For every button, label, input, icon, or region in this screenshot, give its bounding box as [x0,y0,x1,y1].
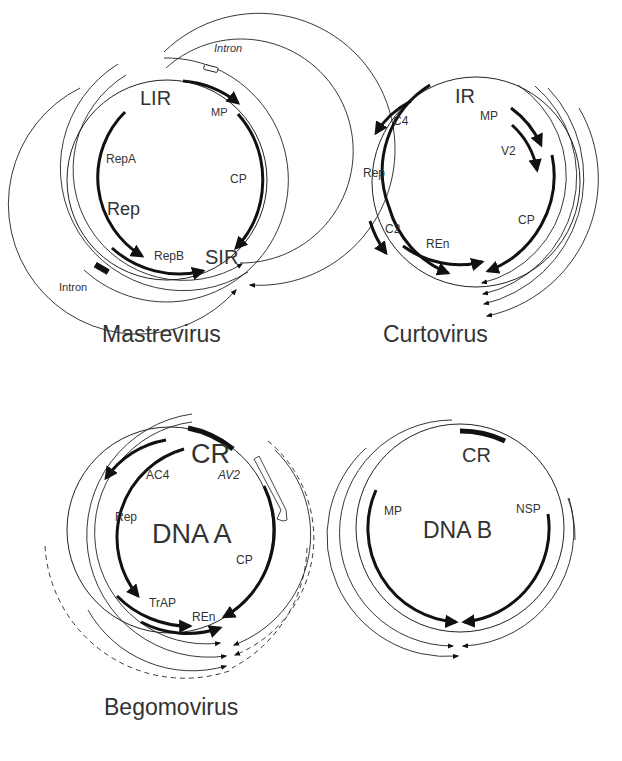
cp-label: CP [236,554,253,566]
repa-label: RepA [106,153,136,165]
v2-label: V2 [501,145,516,157]
cp-label: CP [518,214,535,226]
transcript-arc [484,88,584,304]
begomovirus-title: Begomovirus [104,696,238,719]
genome-maps-diagram [0,0,622,761]
cr-label: CR [191,441,230,468]
ren-label: REn [426,238,449,250]
orf-c2-arrow [370,221,386,253]
c4-label: C4 [393,115,408,127]
intron-top-label: Intron [214,43,242,54]
repb-label: RepB [154,250,184,262]
transcript-arc [164,13,395,285]
intron-box-top [203,64,218,72]
rep-label: Rep [107,200,140,218]
cp-label: CP [230,173,247,185]
orf-repa-arrow [98,112,142,256]
orf-mp-arrow [183,81,238,103]
nsp-label: NSP [516,503,541,515]
rep-label: Rep [115,511,137,523]
transcript-arc [487,108,598,316]
sir-label: SIR [205,247,238,267]
mastrevirus-title: Mastrevirus [102,323,221,346]
transcript-arc-dashed [235,441,314,655]
trap-label: TrAP [149,597,176,609]
mp-label: MP [211,107,228,118]
orf-cp-arrow [224,486,274,617]
curtovirus-title: Curtovirus [383,323,488,346]
intron-bottom-label: Intron [59,282,87,293]
ren-label: REn [192,611,215,623]
ac4-label: AC4 [146,469,169,481]
av2-label: AV2 [218,469,240,481]
rep-label: Rep [363,167,385,179]
lir-label: LIR [140,88,171,108]
dna-a-label: DNA A [152,521,232,548]
orf-mp-arrow [368,490,456,622]
transcript-arc [327,448,458,657]
mp-label: MP [480,110,498,122]
orf-av2-hollow-arrow [254,456,287,521]
ir-label: IR [455,86,475,106]
cr-label: CR [462,445,491,465]
dna-b-label: DNA B [423,519,492,542]
mp-label: MP [384,505,402,517]
c2-label: C2 [385,223,400,235]
dna-b-cr-bar [460,431,505,441]
